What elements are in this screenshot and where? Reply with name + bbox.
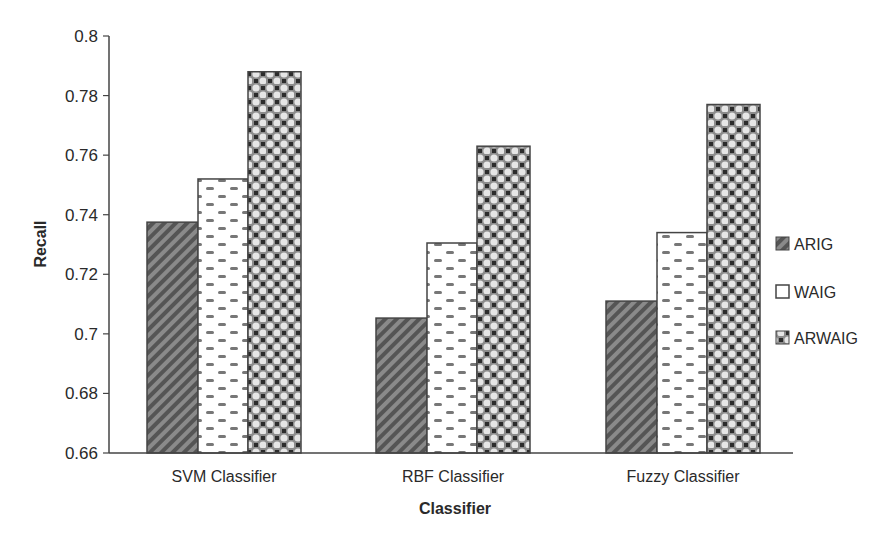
legend-swatch-arig-icon <box>776 237 789 250</box>
legend-item-arwaig: ARWAIG <box>776 330 858 347</box>
y-tick-label: 0.8 <box>74 27 98 46</box>
x-tick-label: RBF Classifier <box>402 468 505 485</box>
bar-waig-2 <box>657 233 707 453</box>
y-axis-title: Recall <box>32 220 49 267</box>
legend-item-arig: ARIG <box>776 236 833 253</box>
y-tick-label: 0.66 <box>65 444 98 463</box>
bar-waig-0 <box>198 179 248 453</box>
bar-arig-0 <box>147 222 198 453</box>
legend-swatch-waig-icon <box>776 285 789 298</box>
y-tick-label: 0.72 <box>65 265 98 284</box>
y-tick-label: 0.78 <box>65 87 98 106</box>
bar-arwaig-2 <box>707 105 760 453</box>
x-axis-title: Classifier <box>419 500 491 517</box>
bar-arig-1 <box>376 318 427 453</box>
y-tick-label: 0.7 <box>74 325 98 344</box>
y-axis-ticks: 0.660.680.70.720.740.760.780.8 <box>65 27 109 463</box>
y-tick-label: 0.68 <box>65 384 98 403</box>
bar-chart: 0.660.680.70.720.740.760.780.8 SVM Class… <box>0 0 893 544</box>
bars-group <box>147 72 760 453</box>
legend-swatch-arwaig-icon <box>776 331 789 344</box>
y-tick-label: 0.76 <box>65 146 98 165</box>
x-tick-label: SVM Classifier <box>172 468 278 485</box>
bar-arwaig-1 <box>477 146 530 453</box>
legend-label: ARWAIG <box>794 330 858 347</box>
legend-item-waig: WAIG <box>776 284 836 301</box>
bar-waig-1 <box>427 243 477 453</box>
legend-label: ARIG <box>794 236 833 253</box>
x-tick-label: Fuzzy Classifier <box>627 468 741 485</box>
y-tick-label: 0.74 <box>65 206 98 225</box>
x-axis-tick-labels: SVM ClassifierRBF ClassifierFuzzy Classi… <box>172 468 741 485</box>
bar-arig-2 <box>606 301 657 453</box>
bar-arwaig-0 <box>248 72 301 453</box>
legend: ARIG WAIG ARWAIG <box>776 236 858 347</box>
legend-label: WAIG <box>794 284 836 301</box>
